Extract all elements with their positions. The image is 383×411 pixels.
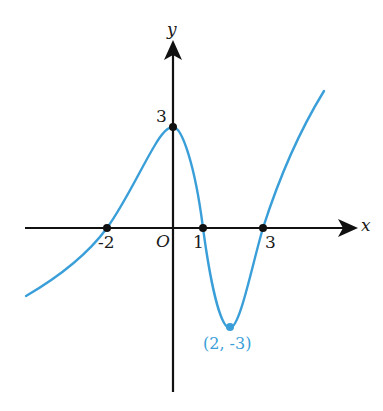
point-minimum: [226, 323, 234, 331]
point-y-3: [169, 123, 177, 131]
minimum-point-label: (2, -3): [203, 336, 251, 352]
point-x-1: [199, 224, 207, 232]
x-tick-label-1: 1: [193, 234, 204, 251]
point-x-neg2: [103, 224, 111, 232]
y-tick-label-3: 3: [156, 108, 167, 125]
point-x-3: [259, 224, 267, 232]
x-tick-label-neg2: -2: [98, 234, 115, 251]
function-graph: [0, 0, 383, 411]
x-axis-label: x: [361, 217, 371, 234]
y-axis-label: y: [167, 21, 177, 38]
x-tick-label-3: 3: [265, 234, 276, 251]
origin-label: O: [156, 233, 170, 250]
